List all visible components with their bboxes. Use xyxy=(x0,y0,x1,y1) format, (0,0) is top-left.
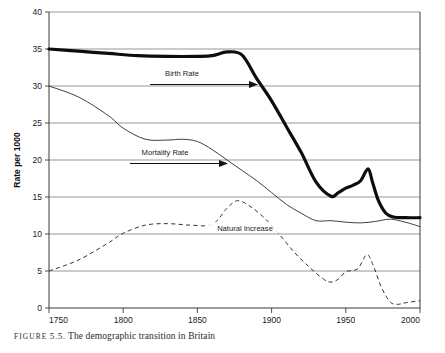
x-tick-label: 1850 xyxy=(188,315,207,325)
annotation-label-natural-increase: Natural Increase xyxy=(217,224,273,233)
x-axis-tick-labels: 1750 1800 1850 1900 1950 2000 xyxy=(49,315,420,325)
annotation-label-mortality-rate: Mortality Rate xyxy=(142,148,189,157)
figure-caption-label: FIGURE xyxy=(14,332,47,341)
y-tick-label: 40 xyxy=(33,7,43,17)
y-tick-label: 5 xyxy=(37,266,42,276)
y-tick-label: 15 xyxy=(33,192,43,202)
y-tick-label: 35 xyxy=(33,44,43,54)
x-tick-label: 1800 xyxy=(114,315,133,325)
x-tick-label: 2000 xyxy=(401,315,420,325)
figure-caption-text: The demographic transition in Britain xyxy=(68,331,215,341)
annotation-label-birth-rate: Birth Rate xyxy=(165,69,199,78)
y-tickmarks xyxy=(45,12,49,308)
y-tick-label: 10 xyxy=(33,229,43,239)
y-tick-label: 25 xyxy=(33,118,43,128)
x-tickmarks xyxy=(49,308,420,313)
x-tick-label: 1950 xyxy=(336,315,355,325)
y-tick-label: 0 xyxy=(37,303,42,313)
figure-container: 40 35 30 25 20 15 10 5 0 1750 1800 1850 … xyxy=(0,0,445,353)
y-tick-label: 20 xyxy=(33,155,43,165)
figure-caption-number: 5.5. xyxy=(50,331,66,341)
y-tick-label: 30 xyxy=(33,81,43,91)
x-tick-label: 1900 xyxy=(262,315,281,325)
y-axis-tick-labels: 40 35 30 25 20 15 10 5 0 xyxy=(33,7,43,313)
y-axis-title: Rate per 1000 xyxy=(12,132,22,188)
x-tick-label: 1750 xyxy=(49,315,68,325)
annotation-natural-increase: Natural Increase xyxy=(205,222,284,233)
demographic-transition-chart: 40 35 30 25 20 15 10 5 0 1750 1800 1850 … xyxy=(0,0,445,353)
figure-caption: FIGURE 5.5. The demographic transition i… xyxy=(14,331,215,341)
